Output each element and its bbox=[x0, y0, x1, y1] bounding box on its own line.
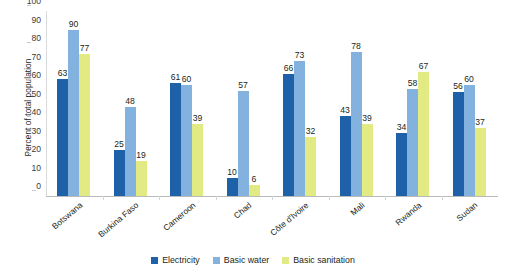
x-axis-group-separator bbox=[216, 196, 217, 200]
bar bbox=[283, 74, 294, 196]
legend-swatch bbox=[151, 257, 158, 264]
bar-value-label: 39 bbox=[193, 113, 203, 123]
y-axis-tick-label: 20 bbox=[31, 144, 41, 154]
bar-group: 639077 bbox=[57, 11, 90, 196]
chart-legend: ElectricityBasic waterBasic sanitation bbox=[0, 255, 506, 265]
bar bbox=[79, 54, 90, 196]
bar bbox=[475, 128, 486, 196]
bar bbox=[114, 150, 125, 196]
bar bbox=[362, 124, 373, 196]
legend-swatch bbox=[213, 257, 220, 264]
bar bbox=[192, 124, 203, 196]
bar-chart: Percent of total population 010203040506… bbox=[0, 0, 506, 272]
bar-value-label: 43 bbox=[340, 105, 350, 115]
x-axis-group-separator bbox=[103, 196, 104, 200]
y-axis-tick-label: 50 bbox=[31, 89, 41, 99]
y-axis-tick-label: 30 bbox=[31, 126, 41, 136]
y-axis-tick-mark bbox=[32, 190, 36, 191]
bar bbox=[181, 85, 192, 196]
y-axis-tick-label: 100 bbox=[27, 0, 41, 6]
y-axis-tick-label: 70 bbox=[31, 52, 41, 62]
bar-value-label: 60 bbox=[182, 74, 192, 84]
legend-label: Basic sanitation bbox=[293, 255, 355, 265]
bar-value-label: 48 bbox=[125, 96, 135, 106]
bar bbox=[57, 79, 68, 196]
bar-value-label: 60 bbox=[464, 74, 474, 84]
bar bbox=[125, 107, 136, 196]
bar bbox=[340, 116, 351, 196]
bar-value-label: 90 bbox=[69, 19, 79, 29]
bar bbox=[238, 91, 249, 196]
bar-value-label: 73 bbox=[295, 50, 305, 60]
legend-item[interactable]: Electricity bbox=[151, 255, 200, 265]
bar-group: 667332 bbox=[283, 11, 316, 196]
bar-value-label: 32 bbox=[306, 126, 316, 136]
bar bbox=[227, 178, 238, 197]
bar bbox=[305, 137, 316, 196]
bar-value-label: 63 bbox=[58, 68, 68, 78]
legend-label: Basic water bbox=[224, 255, 269, 265]
bar bbox=[351, 52, 362, 196]
bar-group: 437839 bbox=[340, 11, 373, 196]
bar bbox=[396, 133, 407, 196]
bar-group: 345867 bbox=[396, 11, 429, 196]
y-axis-tick-label: 60 bbox=[31, 70, 41, 80]
bar-value-label: 10 bbox=[227, 167, 237, 177]
bar-value-label: 25 bbox=[114, 139, 124, 149]
x-axis-group-separator bbox=[159, 196, 160, 200]
bar bbox=[294, 61, 305, 196]
bar-value-label: 77 bbox=[80, 43, 90, 53]
bar-group: 616039 bbox=[170, 11, 203, 196]
x-axis-group-separator bbox=[272, 196, 273, 200]
y-axis-tick-label: 0 bbox=[36, 181, 41, 191]
y-axis-tick-label: 80 bbox=[31, 33, 41, 43]
bar-group: 254819 bbox=[114, 11, 147, 196]
bar-value-label: 78 bbox=[351, 41, 361, 51]
legend-item[interactable]: Basic sanitation bbox=[282, 255, 355, 265]
bar-value-label: 39 bbox=[362, 113, 372, 123]
bar bbox=[68, 30, 79, 197]
bar-group: 10576 bbox=[227, 11, 260, 196]
bar-value-label: 66 bbox=[284, 63, 294, 73]
x-axis-group-separator bbox=[385, 196, 386, 200]
y-axis-tick-label: 40 bbox=[31, 107, 41, 117]
legend-item[interactable]: Basic water bbox=[213, 255, 269, 265]
bar-value-label: 37 bbox=[475, 117, 485, 127]
bar-value-label: 34 bbox=[397, 122, 407, 132]
legend-label: Electricity bbox=[162, 255, 200, 265]
x-axis-group-separator bbox=[329, 196, 330, 200]
plot-area: 0102030405060708090100639077254819616039… bbox=[46, 11, 498, 196]
bar-value-label: 61 bbox=[171, 72, 181, 82]
bar bbox=[418, 72, 429, 196]
y-axis-tick-label: 10 bbox=[31, 163, 41, 173]
bar-value-label: 56 bbox=[453, 81, 463, 91]
bar bbox=[464, 85, 475, 196]
bar-value-label: 58 bbox=[408, 78, 418, 88]
x-axis-group-separator bbox=[442, 196, 443, 200]
legend-swatch bbox=[282, 257, 289, 264]
bar-value-label: 19 bbox=[136, 150, 146, 160]
bar bbox=[407, 89, 418, 196]
y-axis-tick-label: 90 bbox=[31, 15, 41, 25]
bar-value-label: 67 bbox=[419, 61, 429, 71]
bar-value-label: 57 bbox=[238, 80, 248, 90]
bar bbox=[453, 92, 464, 196]
bar-value-label: 6 bbox=[252, 174, 257, 184]
bar-group: 566037 bbox=[453, 11, 486, 196]
